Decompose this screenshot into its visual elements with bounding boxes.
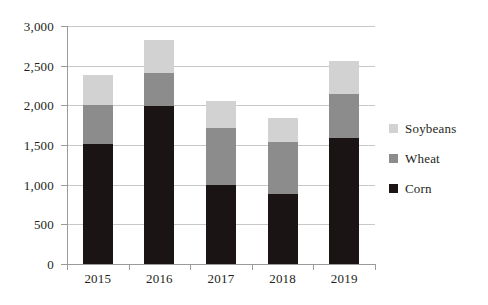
- x-tick-mark: [375, 264, 376, 270]
- legend-item: Soybeans: [389, 113, 488, 143]
- bars-layer: [67, 26, 375, 264]
- bar-segment-soybeans: [144, 40, 174, 73]
- bar-segment-wheat: [206, 128, 236, 185]
- legend-swatch-wheat: [389, 154, 398, 163]
- x-axis-tick-label: 2016: [128, 272, 190, 285]
- bar-segment-corn: [329, 138, 359, 264]
- chart-legend: SoybeansWheatCorn: [389, 113, 488, 203]
- bar-stack: [144, 26, 174, 264]
- bar-stack: [268, 26, 298, 264]
- legend-label: Corn: [405, 182, 432, 195]
- bar-segment-wheat: [329, 94, 359, 138]
- x-tick-mark: [129, 264, 130, 270]
- bar-segment-soybeans: [268, 118, 298, 142]
- legend-item: Wheat: [389, 143, 488, 173]
- bar-segment-wheat: [83, 105, 113, 144]
- legend-swatch-soybeans: [389, 124, 398, 133]
- bar-segment-wheat: [144, 73, 174, 106]
- y-axis-tick-label: 3,000: [0, 20, 54, 33]
- x-axis-tick-label: 2015: [67, 272, 129, 285]
- x-axis-line: [67, 264, 376, 265]
- y-axis-tick-label: 500: [0, 218, 54, 231]
- x-axis-tick-label: 2018: [252, 272, 314, 285]
- bar-segment-corn: [206, 185, 236, 264]
- bar-segment-corn: [83, 144, 113, 264]
- y-axis-tick-label: 1,500: [0, 139, 54, 152]
- legend-label: Wheat: [405, 152, 440, 165]
- bar-segment-soybeans: [329, 61, 359, 94]
- x-tick-mark: [67, 264, 68, 270]
- bar-segment-wheat: [268, 142, 298, 194]
- legend-swatch-corn: [389, 184, 398, 193]
- x-axis-tick-label: 2019: [313, 272, 375, 285]
- legend-item: Corn: [389, 173, 488, 203]
- x-tick-mark: [252, 264, 253, 270]
- bar-segment-soybeans: [206, 101, 236, 127]
- stacked-bar-chart: 05001,0001,5002,0002,5003,000 2015201620…: [0, 0, 488, 305]
- bar-stack: [83, 26, 113, 264]
- x-tick-mark: [190, 264, 191, 270]
- y-axis-tick-label: 2,500: [0, 60, 54, 73]
- bar-segment-soybeans: [83, 75, 113, 106]
- y-axis-tick-label: 0: [0, 258, 54, 271]
- x-axis-tick-label: 2017: [190, 272, 252, 285]
- x-tick-mark: [313, 264, 314, 270]
- legend-label: Soybeans: [405, 122, 456, 135]
- y-axis-tick-label: 1,000: [0, 179, 54, 192]
- bar-segment-corn: [268, 194, 298, 264]
- bar-stack: [329, 26, 359, 264]
- y-axis-tick-label: 2,000: [0, 99, 54, 112]
- bar-segment-corn: [144, 106, 174, 264]
- bar-stack: [206, 26, 236, 264]
